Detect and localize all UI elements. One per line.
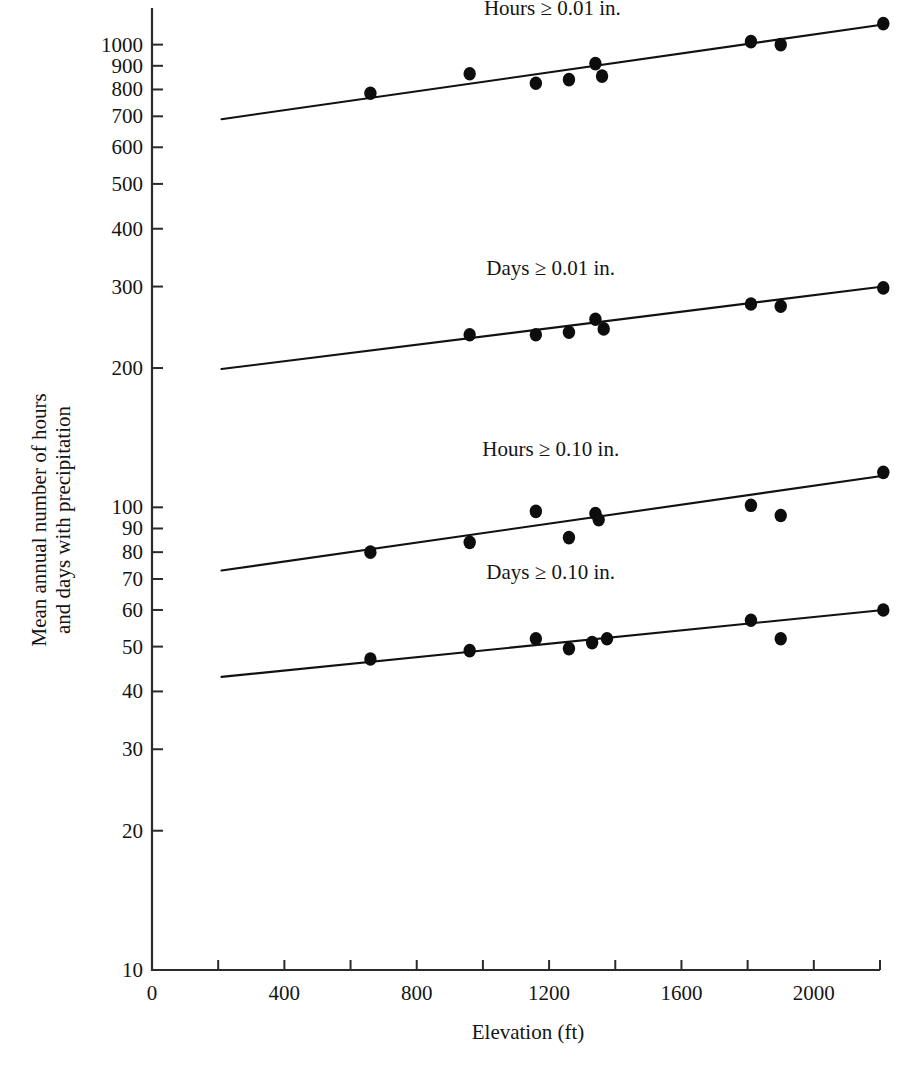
- data-point: [463, 67, 475, 81]
- y-axis-title-line1: Mean annual number of hours: [27, 393, 51, 646]
- data-point: [530, 76, 542, 90]
- series-4: [221, 603, 889, 677]
- y-tick-label: 50: [122, 635, 143, 659]
- y-tick-label: 40: [122, 679, 143, 703]
- y-tick-label: 200: [112, 356, 144, 380]
- data-point: [775, 38, 787, 52]
- data-point: [463, 644, 475, 658]
- x-tick-label: 0: [147, 981, 158, 1005]
- y-axis-title-line2: and days with precipitation: [51, 405, 75, 634]
- series-1: [221, 17, 889, 119]
- data-point: [530, 328, 542, 342]
- data-point: [745, 297, 757, 311]
- data-point: [589, 57, 601, 71]
- y-tick-label: 1000: [101, 33, 143, 57]
- x-tick-label: 1200: [528, 981, 570, 1005]
- y-tick-label: 600: [112, 135, 144, 159]
- data-point: [877, 466, 889, 480]
- data-point: [601, 632, 613, 646]
- y-axis-ticks: 1020304050607080901002003004005006007008…: [101, 33, 163, 982]
- series-labels-group: Hours ≥ 0.01 in.Days ≥ 0.01 in.Hours ≥ 0…: [482, 0, 621, 584]
- data-point: [364, 86, 376, 100]
- data-point: [563, 531, 575, 545]
- x-tick-label: 400: [269, 981, 301, 1005]
- data-point: [530, 632, 542, 646]
- y-tick-label: 90: [122, 516, 143, 540]
- y-axis-title-group: Mean annual number of hours and days wit…: [27, 393, 75, 646]
- axis-frame: [152, 8, 880, 970]
- series-3: [221, 466, 889, 571]
- x-axis-title: Elevation (ft): [472, 1020, 585, 1044]
- y-tick-label: 800: [112, 77, 144, 101]
- regression-line: [221, 25, 883, 120]
- chart-svg: Mean annual number of hours and days wit…: [0, 0, 904, 1068]
- axes-lines: [152, 8, 880, 970]
- data-point: [463, 328, 475, 342]
- data-point: [563, 642, 575, 656]
- data-point: [775, 509, 787, 523]
- y-tick-label: 300: [112, 275, 144, 299]
- y-tick-label: 80: [122, 540, 143, 564]
- x-tick-label: 2000: [793, 981, 835, 1005]
- data-point: [364, 652, 376, 666]
- data-point: [775, 299, 787, 313]
- y-tick-label: 400: [112, 217, 144, 241]
- x-tick-label: 1600: [660, 981, 702, 1005]
- data-point: [596, 69, 608, 83]
- precipitation-elevation-chart: Mean annual number of hours and days wit…: [0, 0, 904, 1068]
- series-2: [221, 281, 889, 369]
- data-point: [775, 632, 787, 646]
- regression-line: [221, 476, 883, 571]
- regression-line: [221, 287, 883, 369]
- data-point: [593, 513, 605, 527]
- data-point: [745, 35, 757, 49]
- x-tick-label: 800: [401, 981, 433, 1005]
- data-point: [563, 73, 575, 87]
- data-point: [877, 17, 889, 31]
- y-tick-label: 100: [112, 495, 144, 519]
- data-point: [530, 505, 542, 519]
- data-point: [597, 322, 609, 336]
- data-point: [364, 545, 376, 559]
- y-tick-label: 20: [122, 819, 143, 843]
- y-tick-label: 700: [112, 104, 144, 128]
- y-tick-label: 70: [122, 567, 143, 591]
- data-point: [877, 603, 889, 617]
- x-axis-ticks: 0400800120016002000: [147, 960, 880, 1005]
- data-point: [745, 499, 757, 513]
- y-tick-label: 60: [122, 598, 143, 622]
- data-point: [563, 325, 575, 339]
- y-tick-label: 30: [122, 737, 143, 761]
- series-label: Days ≥ 0.01 in.: [486, 256, 615, 280]
- y-tick-label: 500: [112, 172, 144, 196]
- y-tick-label: 10: [122, 958, 143, 982]
- series-label: Hours ≥ 0.10 in.: [482, 437, 619, 461]
- series-label: Days ≥ 0.10 in.: [486, 560, 615, 584]
- data-point: [586, 636, 598, 650]
- y-tick-label: 900: [112, 54, 144, 78]
- data-point: [463, 536, 475, 550]
- series-label: Hours ≥ 0.01 in.: [484, 0, 621, 20]
- data-point: [877, 281, 889, 295]
- data-point: [745, 613, 757, 627]
